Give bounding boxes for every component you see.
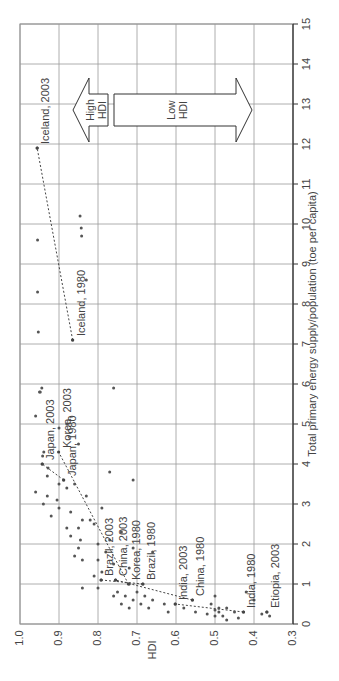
labeled-point xyxy=(242,610,245,613)
data-point xyxy=(225,607,228,610)
data-point xyxy=(260,613,263,616)
tick-label-energy: 12 xyxy=(300,138,312,150)
tick-label-hdi: 0.5 xyxy=(208,630,220,645)
labeled-point xyxy=(36,146,39,149)
data-point xyxy=(42,503,45,506)
data-point xyxy=(69,535,72,538)
data-point xyxy=(93,575,96,578)
point-label: Etiopia, 2003 xyxy=(269,544,281,608)
data-point xyxy=(79,539,82,542)
point-label: Iceland, 2003 xyxy=(39,78,51,144)
data-point xyxy=(112,387,115,390)
data-point xyxy=(79,215,82,218)
labeled-point xyxy=(265,610,268,613)
data-point xyxy=(225,619,228,622)
y-axis-title: HDI xyxy=(146,641,158,660)
data-point xyxy=(182,607,185,610)
data-point xyxy=(46,475,49,478)
point-label: India, 1980 xyxy=(245,554,257,608)
tick-label-energy: 14 xyxy=(300,58,312,70)
chart-canvas: Iceland, 2003Iceland, 1980Japan, 2003Jap… xyxy=(0,0,339,681)
point-label: Brazil, 2003 xyxy=(103,518,115,576)
data-point xyxy=(132,479,135,482)
data-point xyxy=(97,543,100,546)
high-hdi-arrow-label-line2: HDI xyxy=(96,101,108,119)
data-point xyxy=(77,527,80,530)
data-point xyxy=(34,491,37,494)
labeled-point xyxy=(57,450,60,453)
tick-label-energy: 2 xyxy=(300,541,312,547)
data-point xyxy=(100,507,103,510)
data-point xyxy=(56,499,59,502)
tick-label-energy: 1 xyxy=(300,581,312,587)
data-point xyxy=(80,235,83,238)
data-point xyxy=(206,613,209,616)
point-label: China, 1980 xyxy=(194,537,206,596)
data-point xyxy=(221,615,224,618)
data-point xyxy=(47,467,50,470)
data-point xyxy=(37,331,40,334)
data-point xyxy=(58,483,61,486)
trajectory-india xyxy=(175,604,243,612)
data-point xyxy=(81,519,84,522)
point-label: China, 2003 xyxy=(117,517,129,576)
tick-label-energy: 4 xyxy=(300,461,312,467)
tick-label-hdi: 0.4 xyxy=(247,630,259,645)
x-axis-title: Total primary energy supply/population (… xyxy=(306,191,318,456)
data-point xyxy=(237,617,240,620)
data-point xyxy=(116,591,119,594)
data-point xyxy=(194,611,197,614)
point-label: India, 2003 xyxy=(177,546,189,600)
data-point xyxy=(80,227,83,230)
data-point xyxy=(217,611,220,614)
data-point xyxy=(128,607,131,610)
data-point xyxy=(50,515,53,518)
data-point xyxy=(214,609,217,612)
labeled-point xyxy=(71,338,74,341)
tick-label-energy: 11 xyxy=(300,178,312,189)
labeled-point xyxy=(114,578,117,581)
data-point xyxy=(143,595,146,598)
data-point xyxy=(214,615,217,618)
hdi-arrows: HighHDILowHDI xyxy=(73,78,252,142)
data-point xyxy=(163,603,166,606)
data-point xyxy=(34,415,37,418)
point-label: Iceland, 1980 xyxy=(75,270,87,336)
trajectory-japan xyxy=(42,464,63,480)
data-point xyxy=(85,495,88,498)
tick-label-hdi: 1.0 xyxy=(13,630,25,645)
data-point xyxy=(167,611,170,614)
data-point xyxy=(151,599,154,602)
point-label: Japan, 2003 xyxy=(44,399,56,460)
data-point xyxy=(120,603,123,606)
data-point xyxy=(81,587,84,590)
labeled-point xyxy=(41,462,44,465)
data-point xyxy=(40,387,43,390)
point-label: Brazil, 1980 xyxy=(145,522,157,580)
tick-label-hdi: 0.6 xyxy=(169,630,181,645)
data-point xyxy=(77,547,80,550)
data-point xyxy=(36,291,39,294)
data-point xyxy=(136,591,139,594)
labeled-point xyxy=(127,582,130,585)
labeled-point xyxy=(141,582,144,585)
data-point xyxy=(73,555,76,558)
tick-label-hdi: 0.7 xyxy=(130,630,142,645)
data-point xyxy=(93,523,96,526)
tick-label-energy: 3 xyxy=(300,501,312,507)
labeled-point xyxy=(62,478,65,481)
data-point xyxy=(97,559,100,562)
tick-label-hdi: 0.3 xyxy=(286,630,298,645)
tick-label-energy: 15 xyxy=(300,18,312,30)
data-point xyxy=(69,511,72,514)
data-point xyxy=(217,607,220,610)
data-point xyxy=(210,603,213,606)
data-point xyxy=(97,587,100,590)
data-point xyxy=(132,599,135,602)
tick-label-energy: 13 xyxy=(300,98,312,110)
data-point xyxy=(112,595,115,598)
data-point xyxy=(89,519,92,522)
data-point xyxy=(46,495,49,498)
data-point xyxy=(139,603,142,606)
hdi-energy-scatter-chart: Iceland, 2003Iceland, 1980Japan, 2003Jap… xyxy=(0,0,339,681)
